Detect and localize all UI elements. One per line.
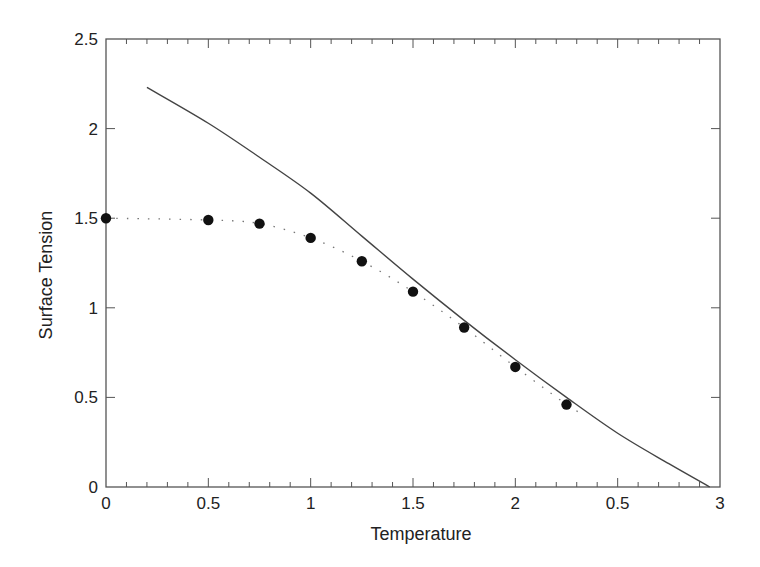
x-tick-label: 2 [511,494,520,513]
plot-border [106,39,720,487]
y-tick-label: 2 [89,120,98,139]
data-series [101,87,710,487]
data-point-marker [357,256,367,266]
y-tick-label: 0 [89,478,98,497]
x-tick-labels: 00.511.520.53 [101,494,724,513]
data-point-marker [561,399,571,409]
theory-curve [147,87,710,487]
y-axis-label: Surface Tension [36,211,56,340]
plot-frame [106,39,720,487]
y-tick-label: 1 [89,299,98,318]
y-tick-label: 0.5 [74,388,98,407]
data-point-marker [305,233,315,243]
x-tick-label: 0.5 [606,494,630,513]
data-point-marker [408,286,418,296]
data-point-marker [101,213,111,223]
x-tick-label: 0.5 [197,494,221,513]
y-tick-labels: 00.511.522.5 [74,30,98,497]
data-point-marker [459,322,469,332]
surface-tension-chart: 00.511.520.53 00.511.522.5 Temperature S… [0,0,760,567]
data-point-marker [254,218,264,228]
data-point-marker [203,215,213,225]
y-tick-label: 2.5 [74,30,98,49]
x-tick-label: 1.5 [401,494,425,513]
axis-ticks [106,39,720,487]
data-point-marker [510,362,520,372]
x-tick-label: 1 [306,494,315,513]
x-axis-label: Temperature [370,524,471,544]
x-tick-label: 3 [715,494,724,513]
x-tick-label: 0 [101,494,110,513]
y-tick-label: 1.5 [74,209,98,228]
simulation-dotted-line [106,218,581,413]
